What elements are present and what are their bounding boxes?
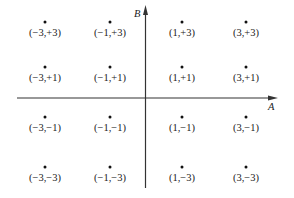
point-label: (3,−1) [233, 122, 259, 134]
point-label: (1,+1) [169, 72, 195, 84]
point-label: (1,−1) [169, 122, 195, 134]
point-label: (−3,+1) [29, 72, 61, 84]
point-label: (−1,−3) [94, 172, 126, 184]
point-dot [181, 166, 184, 169]
point-dot [44, 166, 47, 169]
point-dot [44, 116, 47, 119]
point-dot [44, 21, 47, 24]
point-dot [181, 21, 184, 24]
point-dot [109, 21, 112, 24]
point-dot [109, 66, 112, 69]
point-dot [245, 66, 248, 69]
point-dot [245, 166, 248, 169]
vertical-axis-arrow-icon [143, 5, 148, 15]
point-dot [44, 66, 47, 69]
point-label: (1,−3) [169, 172, 195, 184]
point-label: (−1,+1) [94, 72, 126, 84]
point-label: (−3,−1) [29, 122, 61, 134]
point-dot [109, 116, 112, 119]
point-dot [181, 116, 184, 119]
point-label: (−3,+3) [29, 27, 61, 39]
point-dot [245, 116, 248, 119]
vertical-axis-label: B [134, 8, 140, 19]
horizontal-axis-arrow-icon [268, 96, 278, 101]
point-label: (−1,+3) [94, 27, 126, 39]
point-dot [109, 166, 112, 169]
point-dot [245, 21, 248, 24]
horizontal-axis-label: A [268, 101, 274, 112]
point-label: (1,+3) [169, 27, 195, 39]
point-label: (3,+3) [233, 27, 259, 39]
point-label: (3,−3) [233, 172, 259, 184]
point-dot [181, 66, 184, 69]
point-label: (−3,−3) [29, 172, 61, 184]
point-label: (−1,−1) [94, 122, 126, 134]
constellation-diagram: B A (−3,+3) (−1,+3) (1,+3) (3,+3) (−3,+1… [0, 0, 294, 198]
point-label: (3,+1) [233, 72, 259, 84]
